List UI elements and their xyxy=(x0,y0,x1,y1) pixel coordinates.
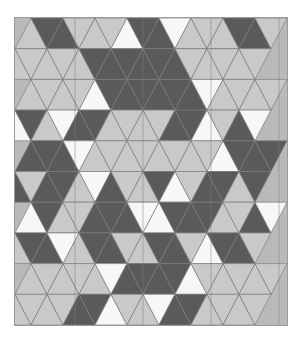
tessellation-frame xyxy=(14,17,288,326)
tessellation-canvas xyxy=(15,18,287,325)
tile-group xyxy=(15,18,287,325)
artboard xyxy=(0,0,302,343)
